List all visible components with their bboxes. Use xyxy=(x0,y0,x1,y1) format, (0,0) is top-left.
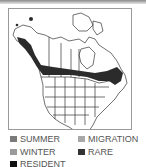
legend-item-resident: RESIDENT xyxy=(10,159,66,167)
resident-swatch xyxy=(10,161,17,167)
legend-item-summer: SUMMER xyxy=(10,134,60,144)
migration-swatch xyxy=(78,136,85,142)
rare-swatch xyxy=(78,149,85,155)
legend-item-migration: MIGRATION xyxy=(78,134,138,144)
winter-swatch xyxy=(10,149,17,155)
range-area xyxy=(17,37,123,85)
range-map xyxy=(8,8,132,130)
summer-swatch xyxy=(10,136,17,142)
north-america-map xyxy=(9,9,132,130)
legend-item-rare: RARE xyxy=(78,147,113,157)
legend-item-winter: WINTER xyxy=(10,147,56,157)
top-gradient-bar xyxy=(0,0,146,4)
